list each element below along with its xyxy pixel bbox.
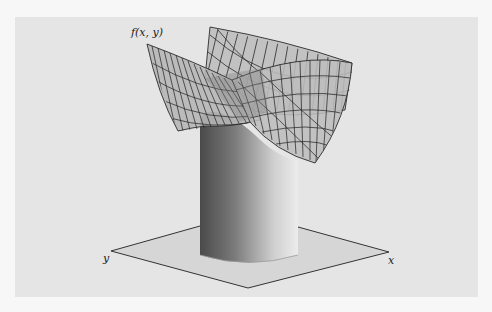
x-axis-label: x: [388, 254, 394, 267]
function-label: f(x, y): [131, 26, 163, 39]
y-axis-label: y: [103, 252, 109, 265]
surface-figure: [0, 0, 492, 312]
